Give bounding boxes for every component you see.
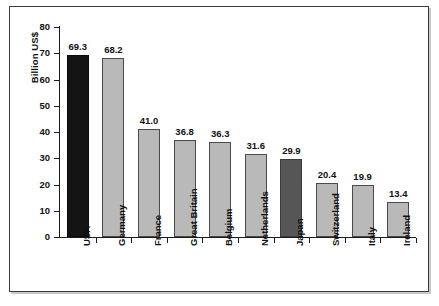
x-axis-tick [345,238,346,243]
y-axis-tick [54,237,59,238]
category-label: USA [82,226,92,246]
x-axis-tick [238,238,239,243]
y-axis-tick [54,27,59,28]
category-label: France [153,215,163,246]
x-axis-tick [202,238,203,243]
chart-figure: Billion US$ 01020304050607080 69.368.241… [0,0,439,306]
category-label: Italy [367,227,377,246]
x-axis-tick [416,238,417,243]
bar-value-label: 29.9 [271,146,311,156]
y-axis-tick [54,211,59,212]
y-axis-tick [54,132,59,133]
x-axis-tick [380,238,381,243]
y-axis-tick-label: 30 [26,153,50,163]
x-axis-tick [274,238,275,243]
y-axis-tick-label: 70 [26,48,50,58]
y-axis-tick [54,106,59,107]
y-axis-line [59,26,60,238]
bar-value-label: 13.4 [378,189,418,199]
plot-area: Billion US$ 01020304050607080 69.368.241… [0,0,439,306]
bar-value-label: 19.9 [343,172,383,182]
y-axis-tick [54,185,59,186]
category-label: Netherlands [260,191,270,246]
y-axis-tick [54,80,59,81]
y-axis-tick-label: 80 [26,22,50,32]
x-axis-tick [167,238,168,243]
bar-value-label: 36.8 [165,127,205,137]
category-label: Switzerland [331,193,341,246]
bar-value-label: 36.3 [200,129,240,139]
y-axis-tick-label: 40 [26,127,50,137]
y-axis-tick [54,53,59,54]
category-label: Japan [295,219,305,246]
y-axis-tick-label: 20 [26,180,50,190]
x-axis-tick [131,238,132,243]
bar [67,55,89,237]
category-label: Germany [117,205,127,246]
bar-value-label: 41.0 [129,116,169,126]
bar-value-label: 20.4 [307,170,347,180]
category-label: Great Britain [189,188,199,246]
y-axis-tick-label: 0 [26,232,50,242]
bar-value-label: 31.6 [236,141,276,151]
x-axis-tick [309,238,310,243]
bar-value-label: 68.2 [93,45,133,55]
bar-value-label: 69.3 [58,42,98,52]
y-axis-tick [54,158,59,159]
category-label: Ireland [402,215,412,246]
category-label: Belgium [224,209,234,246]
x-axis-tick [96,238,97,243]
y-axis-tick-label: 50 [26,101,50,111]
y-axis-tick-label: 60 [26,75,50,85]
y-axis-tick-label: 10 [26,206,50,216]
